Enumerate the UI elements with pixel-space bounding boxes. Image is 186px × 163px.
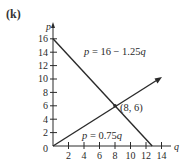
y-tick-label: 2 [43, 127, 48, 138]
intersection-dot [113, 104, 117, 108]
demand-eq-rhs: = 16 − 1.25 [89, 46, 140, 57]
x-tick-label: 4 [82, 150, 87, 161]
demand-equation-label: p = 16 − 1.25q [83, 46, 146, 57]
intersection-label: (8, 6) [120, 102, 143, 114]
x-tick-label: 6 [97, 150, 102, 161]
y-tick-labels: 2 4 6 8 10 12 14 16 [38, 33, 48, 138]
supply-eq-rhs: = 0.75 [87, 130, 117, 141]
y-axis-arrow-icon [51, 22, 55, 28]
x-axis-label: q [174, 141, 179, 152]
x-tick-label: 14 [157, 150, 167, 161]
supply-equation-label: p = 0.75q [81, 130, 122, 141]
supply-eq-var: q [117, 130, 122, 141]
x-tick-labels: 2 4 6 8 10 12 14 [66, 150, 167, 161]
y-tick-label: 8 [43, 87, 48, 98]
x-tick-label: 8 [113, 150, 118, 161]
y-tick-label: 14 [38, 47, 48, 58]
y-axis-label: p [45, 21, 51, 32]
demand-eq-var: q [140, 46, 145, 57]
origin-label: 0 [43, 143, 48, 154]
y-tick-label: 4 [43, 114, 48, 125]
supply-arrow-icon [155, 77, 163, 83]
y-tick-label: 10 [38, 73, 48, 84]
y-tick-label: 12 [38, 60, 48, 71]
x-tick-label: 2 [66, 150, 71, 161]
y-tick-label: 16 [38, 33, 48, 44]
y-tick-label: 6 [43, 100, 48, 111]
x-tick-label: 10 [126, 150, 136, 161]
x-tick-label: 12 [141, 150, 151, 161]
chart-canvas: (k) p q 0 2 4 6 8 10 12 14 16 2 [0, 0, 186, 163]
panel-label: (k) [6, 7, 21, 21]
